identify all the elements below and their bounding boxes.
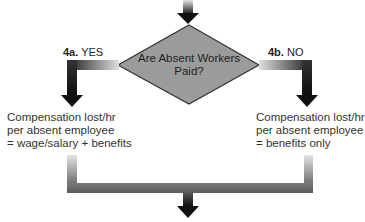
yes-result-line: = wage/salary + benefits <box>7 137 132 150</box>
yes-branch-label: 4a. YES <box>63 46 103 58</box>
decision-question-line1: Are Absent Workers <box>128 52 250 65</box>
outgoing-arrow <box>177 193 199 218</box>
no-result-line: = benefits only <box>256 137 365 150</box>
no-result-line: per absent employee <box>256 124 365 137</box>
no-branch-arrow <box>259 60 318 107</box>
no-branch-label: 4b. NO <box>268 46 303 58</box>
yes-label: YES <box>81 46 103 58</box>
no-step-number: 4b. <box>268 46 284 58</box>
no-result-text: Compensation lost/hr per absent employee… <box>256 111 365 150</box>
yes-result-line: Compensation lost/hr <box>7 111 132 124</box>
incoming-arrow <box>177 0 199 24</box>
decision-question: Are Absent Workers Paid? <box>128 52 250 78</box>
yes-branch-arrow <box>61 60 119 107</box>
no-result-line: Compensation lost/hr <box>256 111 365 124</box>
yes-result-line: per absent employee <box>7 124 132 137</box>
no-label: NO <box>287 46 304 58</box>
merge-connector <box>67 155 313 193</box>
yes-step-number: 4a. <box>63 46 78 58</box>
decision-question-line2: Paid? <box>128 65 250 78</box>
yes-result-text: Compensation lost/hr per absent employee… <box>7 111 132 150</box>
